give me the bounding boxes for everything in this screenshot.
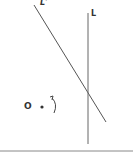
geometry-diagram — [0, 0, 133, 159]
rotation-arrow-icon — [52, 98, 56, 113]
arrowhead-icon — [50, 96, 53, 100]
point-o-dot — [40, 105, 43, 108]
label-l-prime: L' — [40, 0, 48, 7]
line-l-prime — [34, 5, 106, 122]
label-o: O — [24, 102, 32, 111]
label-l: L — [91, 10, 96, 18]
